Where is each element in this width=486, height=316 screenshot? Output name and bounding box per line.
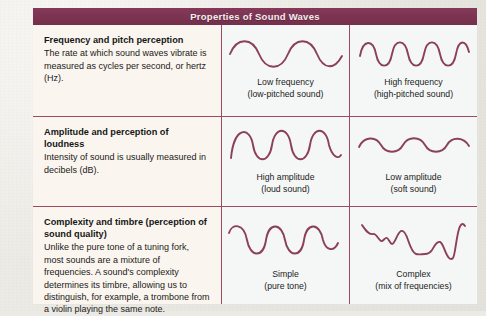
caption-line-2: (soft sound)	[385, 184, 441, 196]
wave-caption: Complex (mix of frequencies)	[375, 269, 451, 292]
wave-caption: Low amplitude (soft sound)	[385, 172, 441, 195]
row-body-text: Unlike the pure tone of a tuning fork, m…	[44, 241, 210, 315]
wave-caption: High amplitude (loud sound)	[257, 172, 315, 195]
high-frequency-wave-icon	[356, 35, 472, 73]
table-header-bar: Properties of Sound Waves	[33, 8, 477, 25]
row-body-text: The rate at which sound waves vibrate is…	[44, 47, 210, 84]
low-frequency-wave-icon	[228, 35, 344, 73]
wave-cell-middle: High amplitude (loud sound)	[222, 117, 350, 206]
row-body-text: Intensity of sound is usually measured i…	[44, 151, 210, 176]
caption-line-2: (pure tone)	[264, 281, 307, 293]
table-row: Complexity and timbre (perception of sou…	[33, 207, 477, 304]
high-amplitude-wave-icon	[228, 122, 344, 168]
wave-cell-right: Complex (mix of frequencies)	[350, 207, 477, 304]
caption-line-1: Low amplitude	[385, 172, 441, 184]
row-heading: Complexity and timbre (perception of sou…	[44, 216, 210, 240]
wave-cell-middle: Simple (pure tone)	[222, 207, 350, 304]
caption-line-1: Simple	[264, 269, 307, 281]
properties-of-sound-waves-table: Properties of Sound Waves Frequency and …	[33, 8, 477, 304]
wave-caption: High frequency (high-pitched sound)	[374, 77, 453, 100]
caption-line-2: (mix of frequencies)	[375, 281, 451, 293]
complex-tone-wave-icon	[356, 219, 472, 263]
caption-line-1: Complex	[375, 269, 451, 281]
caption-line-1: High amplitude	[257, 172, 315, 184]
caption-line-2: (high-pitched sound)	[374, 89, 453, 101]
row-description-cell: Complexity and timbre (perception of sou…	[33, 207, 222, 304]
wave-caption: Simple (pure tone)	[264, 269, 307, 292]
caption-line-1: High frequency	[374, 77, 453, 89]
wave-cell-right: Low amplitude (soft sound)	[350, 117, 477, 206]
table-row: Amplitude and perception of loudness Int…	[33, 117, 477, 207]
caption-line-2: (loud sound)	[257, 184, 315, 196]
table-title: Properties of Sound Waves	[190, 11, 319, 22]
low-amplitude-wave-icon	[356, 122, 472, 168]
row-heading: Amplitude and perception of loudness	[44, 126, 210, 150]
table-row: Frequency and pitch perception The rate …	[33, 25, 477, 117]
row-description-cell: Frequency and pitch perception The rate …	[33, 25, 222, 116]
wave-cell-right: High frequency (high-pitched sound)	[350, 25, 477, 116]
table-grid: Frequency and pitch perception The rate …	[33, 25, 477, 304]
caption-line-2: (low-pitched sound)	[248, 89, 324, 101]
simple-tone-wave-icon	[228, 219, 344, 263]
wave-cell-middle: Low frequency (low-pitched sound)	[222, 25, 350, 116]
row-heading: Frequency and pitch perception	[44, 34, 210, 46]
caption-line-1: Low frequency	[248, 77, 324, 89]
wave-caption: Low frequency (low-pitched sound)	[248, 77, 324, 100]
row-description-cell: Amplitude and perception of loudness Int…	[33, 117, 222, 206]
